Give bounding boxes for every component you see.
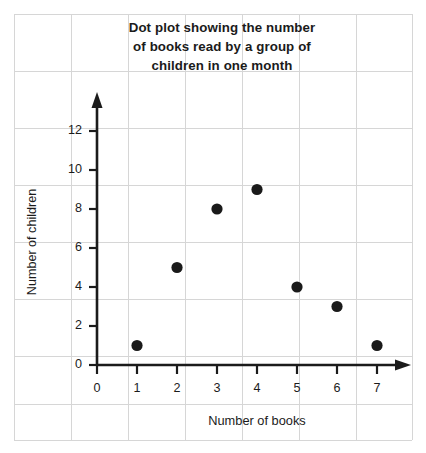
y-tick-label-2: 2	[56, 318, 82, 332]
x-tick-label-4: 4	[246, 381, 268, 395]
y-axis-label: Number of children	[25, 162, 39, 322]
y-tick-label-10: 10	[56, 162, 82, 176]
data-point	[131, 340, 142, 351]
data-point	[211, 203, 222, 214]
chart-title-line-2: of books read by a group of	[113, 37, 331, 56]
y-axis-arrowhead	[92, 92, 103, 108]
x-axis-label: Number of books	[97, 413, 417, 428]
data-point	[251, 184, 262, 195]
data-points	[131, 184, 382, 351]
x-tick-label-7: 7	[366, 381, 388, 395]
chart-title-line-3: children in one month	[113, 56, 331, 75]
x-axis-ticks	[97, 365, 377, 374]
data-point	[171, 262, 182, 273]
chart-title-line-1: Dot plot showing the number	[113, 18, 331, 37]
y-tick-label-8: 8	[56, 201, 82, 215]
chart-canvas: Dot plot showing the number of books rea…	[0, 0, 426, 453]
y-tick-label-4: 4	[56, 279, 82, 293]
y-tick-label-12: 12	[56, 123, 82, 137]
data-point	[331, 301, 342, 312]
x-tick-label-3: 3	[206, 381, 228, 395]
x-tick-label-0: 0	[86, 381, 108, 395]
data-point	[371, 340, 382, 351]
x-tick-label-1: 1	[126, 381, 148, 395]
x-tick-label-5: 5	[286, 381, 308, 395]
x-tick-label-6: 6	[326, 381, 348, 395]
y-tick-label-0: 0	[56, 357, 82, 371]
data-point	[291, 281, 302, 292]
y-tick-label-6: 6	[56, 240, 82, 254]
x-axis-arrowhead	[395, 360, 411, 371]
chart-title: Dot plot showing the number of books rea…	[113, 18, 331, 75]
x-tick-label-2: 2	[166, 381, 188, 395]
